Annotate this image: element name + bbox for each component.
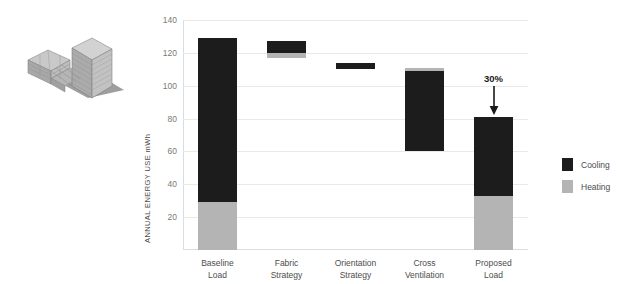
- building-massing-svg: [18, 22, 138, 114]
- y-tick-label: 80: [168, 114, 177, 124]
- y-tick-label: 120: [163, 48, 177, 58]
- x-axis-label-line: Proposed: [449, 258, 539, 270]
- bar-segment-cooling: [336, 63, 375, 70]
- plot-area: 20406080100120140 30%: [183, 20, 528, 250]
- y-tick-label: 140: [163, 15, 177, 25]
- y-tick-label: 20: [168, 212, 177, 222]
- legend-label-heating: Heating: [581, 182, 610, 192]
- bar-segment-cooling: [474, 117, 513, 196]
- bar-segment-cooling: [405, 71, 444, 152]
- y-tick-label: 40: [168, 179, 177, 189]
- bar-proposed-load[interactable]: [474, 20, 513, 250]
- bar-fabric-strategy[interactable]: [267, 20, 306, 250]
- y-axis-title: ANNUAL ENERGY USE mWh: [143, 134, 152, 243]
- bar-segment-cooling: [198, 38, 237, 202]
- legend-label-cooling: Cooling: [581, 160, 610, 170]
- annotation-arrow-down: [488, 86, 500, 120]
- y-tick-label: 100: [163, 81, 177, 91]
- building-massing-illustration: [18, 22, 138, 114]
- annotation-label-savings: 30%: [464, 73, 524, 84]
- x-axis-label-proposed-load: ProposedLoad: [449, 258, 539, 281]
- bar-segment-heating: [474, 196, 513, 250]
- x-axis-label-line: Load: [449, 270, 539, 282]
- bar-segment-cooling: [267, 41, 306, 53]
- y-tick-label: 60: [168, 146, 177, 156]
- energy-waterfall-chart: ANNUAL ENERGY USE mWh 20406080100120140 …: [135, 8, 555, 284]
- y-axis-line: [183, 20, 184, 250]
- bar-cross-ventilation[interactable]: [405, 20, 444, 250]
- legend-swatch-heating: [562, 180, 573, 193]
- bar-baseline-load[interactable]: [198, 20, 237, 250]
- chart-legend: CoolingHeating: [562, 158, 610, 202]
- bar-orientation-strategy[interactable]: [336, 20, 375, 250]
- bar-segment-heating: [198, 202, 237, 250]
- legend-swatch-cooling: [562, 158, 573, 171]
- legend-item-cooling[interactable]: Cooling: [562, 158, 610, 171]
- bar-segment-heating: [267, 53, 306, 58]
- legend-item-heating[interactable]: Heating: [562, 180, 610, 193]
